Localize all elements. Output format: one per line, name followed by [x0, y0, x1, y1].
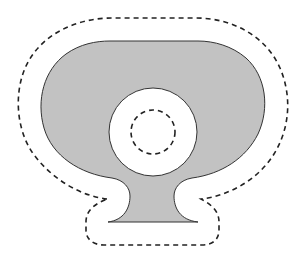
diagram-canvas	[0, 0, 302, 257]
white-circle	[109, 88, 197, 176]
diagram-svg	[0, 0, 302, 257]
